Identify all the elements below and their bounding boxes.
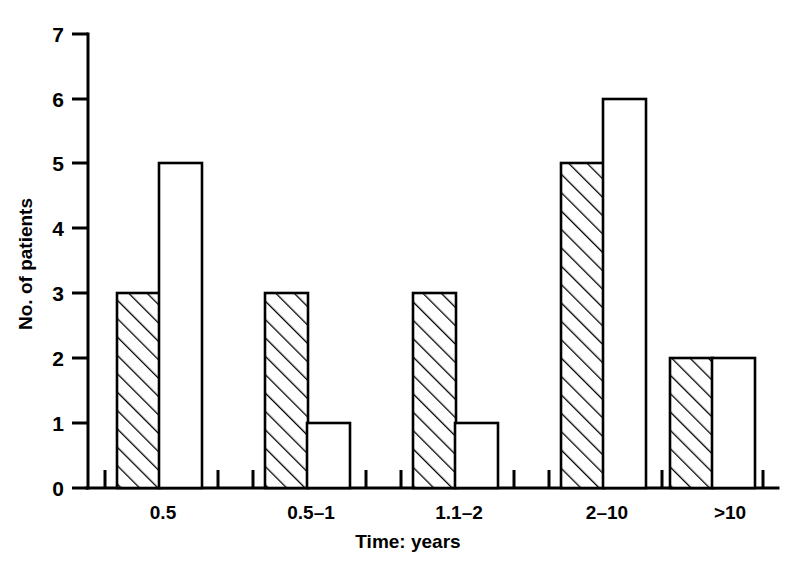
y-tick-label-2: 2 bbox=[52, 347, 64, 370]
y-axis-title: No. of patients bbox=[15, 198, 36, 330]
bar-white-4[interactable] bbox=[712, 358, 755, 488]
y-tick-label-6: 6 bbox=[52, 88, 64, 111]
bar-hatched-2[interactable] bbox=[413, 293, 456, 488]
bar-group-4 bbox=[670, 358, 755, 488]
bar-white-3[interactable] bbox=[603, 99, 646, 488]
y-tick-label-5: 5 bbox=[52, 152, 64, 175]
y-tick-label-0: 0 bbox=[52, 477, 64, 500]
bar-hatched-0[interactable] bbox=[117, 293, 160, 488]
y-tick-label-3: 3 bbox=[52, 282, 64, 305]
x-category-label-2: 1.1–2 bbox=[435, 502, 483, 523]
bar-white-2[interactable] bbox=[455, 423, 498, 488]
y-tick-label-4: 4 bbox=[52, 217, 64, 240]
x-category-label-3: 2–10 bbox=[586, 502, 628, 523]
bar-hatched-4[interactable] bbox=[670, 358, 713, 488]
x-category-label-1: 0.5–1 bbox=[287, 502, 335, 523]
bar-white-0[interactable] bbox=[159, 163, 202, 488]
x-category-label-0: 0.5 bbox=[150, 502, 177, 523]
x-axis-title: Time: years bbox=[355, 531, 460, 552]
bar-chart-svg: 7 6 5 4 3 2 1 0 bbox=[0, 0, 806, 574]
x-category-label-4: >10 bbox=[714, 502, 746, 523]
bar-white-1[interactable] bbox=[307, 423, 350, 488]
bar-hatched-1[interactable] bbox=[265, 293, 308, 488]
chart-figure: 7 6 5 4 3 2 1 0 bbox=[0, 0, 806, 574]
bar-hatched-3[interactable] bbox=[561, 163, 604, 488]
y-tick-label-1: 1 bbox=[52, 412, 64, 435]
y-tick-label-7: 7 bbox=[52, 23, 64, 46]
